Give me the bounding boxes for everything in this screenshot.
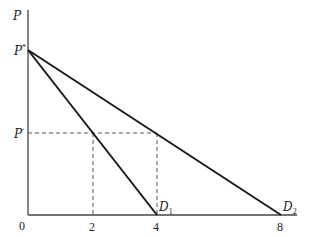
diagram-canvas: P P* P′ 0 2 4 8 D1 D2 <box>0 0 322 237</box>
y-axis-label: P <box>12 9 22 23</box>
d1-label: D1 <box>158 200 173 216</box>
p-prime-label: P′ <box>13 127 25 141</box>
p-star-label: P* <box>13 43 26 58</box>
origin-label: 0 <box>19 219 25 233</box>
d2-label: D2 <box>282 200 297 216</box>
x-tick-2: 2 <box>89 220 95 234</box>
x-tick-4: 4 <box>153 220 159 234</box>
x-tick-8: 8 <box>277 220 283 234</box>
